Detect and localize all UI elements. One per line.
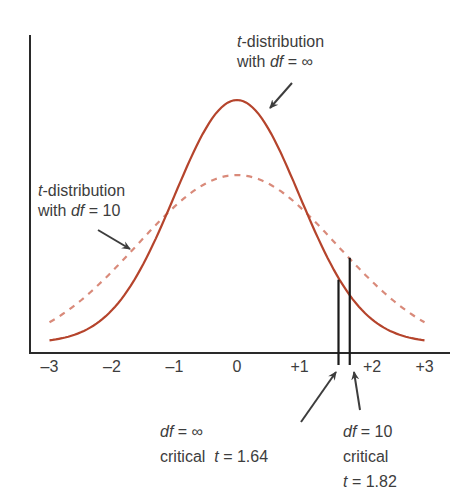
label-critical-inf: df = ∞ critical t = 1.64	[160, 419, 268, 469]
arrow-top-label-icon	[270, 83, 292, 108]
label-text: = 1.82	[347, 473, 396, 490]
arrow-crit-10-icon	[354, 372, 360, 410]
label-text: -distribution	[241, 33, 324, 50]
label-text: critical	[343, 444, 397, 469]
label-t-inf: t-distribution with df = ∞	[237, 32, 324, 72]
x-tick-label: 0	[233, 358, 242, 376]
label-text: = ∞	[173, 423, 203, 440]
label-text: -distribution	[42, 182, 125, 199]
x-tick-label: –2	[103, 358, 121, 376]
x-tick-label: –1	[166, 358, 184, 376]
label-text: with	[237, 53, 270, 70]
label-text: df	[343, 423, 356, 440]
label-text: df	[270, 53, 283, 70]
arrow-left-label-icon	[98, 230, 130, 249]
label-critical-10: df = 10 critical t = 1.82	[343, 419, 397, 494]
label-text: = 10	[84, 202, 120, 219]
label-text: = 1.64	[219, 448, 268, 465]
x-tick-label: –3	[41, 358, 59, 376]
label-t-10: t-distribution with df = 10	[38, 181, 125, 221]
label-text: critical	[160, 448, 214, 465]
label-text: df	[160, 423, 173, 440]
x-tick-label: +1	[290, 358, 308, 376]
label-text: with	[38, 202, 71, 219]
label-text: = ∞	[283, 53, 313, 70]
label-text: df	[71, 202, 84, 219]
x-tick-label: +3	[415, 358, 433, 376]
label-text: = 10	[356, 423, 392, 440]
arrow-crit-inf-icon	[301, 372, 336, 422]
x-tick-label: +2	[363, 358, 381, 376]
